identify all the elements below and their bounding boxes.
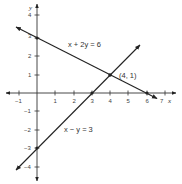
- x-tick-label: −1: [15, 98, 23, 104]
- x-tick-label: 3: [91, 98, 95, 104]
- x-tick-label: 2: [73, 98, 77, 104]
- x-tick-label: 7: [160, 98, 164, 104]
- graph: −1 1 2 3 4 5 6 7 x y 4 3 2 1 −1 −2 −3 −4: [0, 0, 182, 184]
- x-tick-label: 5: [127, 98, 131, 104]
- line-x-minus-y-eq-3: x − y = 3: [16, 45, 140, 170]
- line1-label: x + 2y = 6: [68, 40, 101, 49]
- x-tick-label: 4: [109, 98, 113, 104]
- intersection-label: (4, 1): [119, 71, 137, 80]
- y-intercept-point: [35, 36, 38, 39]
- x-tick-label: 1: [54, 98, 58, 104]
- y-axis-label: y: [28, 4, 33, 12]
- x-axis-label: x: [167, 97, 172, 105]
- y-tick-label: −4: [24, 164, 32, 170]
- line2-label: x − y = 3: [64, 125, 93, 134]
- y-tick-label: −3: [24, 145, 32, 151]
- x-intercept-point: [145, 91, 148, 94]
- y-tick-label: 2: [28, 53, 32, 59]
- y-tick-label: 4: [28, 12, 32, 18]
- y-tick-label: −2: [24, 127, 32, 133]
- y-tick-label: −1: [24, 108, 32, 114]
- x-intercept-point: [90, 91, 93, 94]
- y-tick-label: 1: [28, 72, 32, 78]
- y-intercept-point: [35, 146, 38, 149]
- x-tick-label: 6: [146, 98, 150, 104]
